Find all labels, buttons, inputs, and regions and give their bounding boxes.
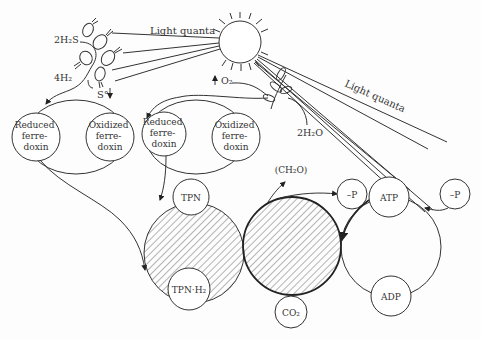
water-label: 2H₂O	[297, 127, 323, 138]
photosynthesis-diagram: Light quanta Light quanta 2H₂S 4H₂ S°	[0, 0, 481, 340]
light-rays-left	[112, 33, 220, 81]
h2s-label: 2H₂S	[54, 34, 79, 45]
sun-icon	[213, 12, 268, 71]
phosphate-label-2: –P	[450, 190, 461, 200]
bacteria-icon	[74, 18, 122, 88]
light-quanta-label-left: Light quanta	[150, 25, 215, 36]
ch2o-label: (CH₂O)	[275, 165, 308, 175]
tpn-label: TPN	[181, 193, 201, 203]
phosphate-path	[425, 208, 448, 210]
phosphate-label-1: –P	[347, 190, 358, 200]
adp-label: ADP	[380, 292, 401, 302]
co2-label: CO₂	[282, 308, 300, 318]
atp-label: ATP	[379, 193, 398, 203]
tpnh2-label: TPN·H₂	[172, 285, 207, 295]
sulfur-label: S°	[97, 89, 109, 100]
h2-label: 4H₂	[54, 72, 72, 83]
oxygen-label: O₂	[221, 75, 233, 86]
